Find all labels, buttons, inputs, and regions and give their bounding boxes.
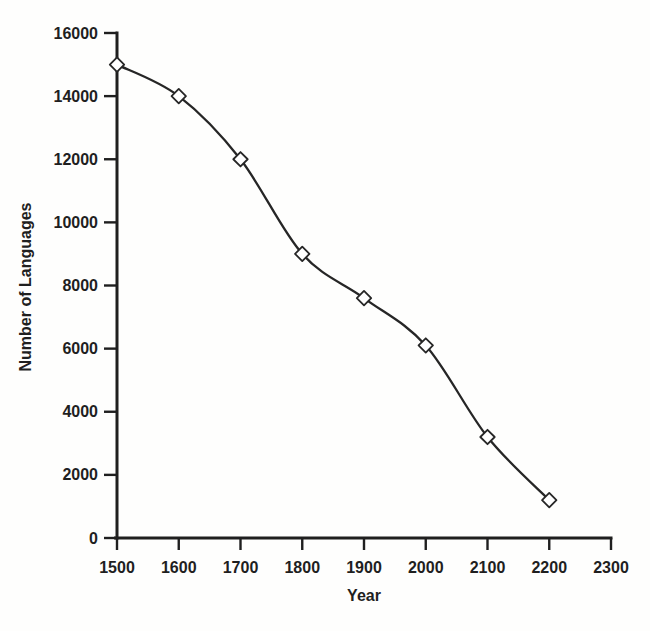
y-tick-label: 6000 <box>62 340 98 357</box>
y-tick-label: 2000 <box>62 466 98 483</box>
x-tick-label: 1900 <box>346 559 382 576</box>
chart-svg: 0200040006000800010000120001400016000150… <box>0 0 650 631</box>
y-tick-label: 10000 <box>54 214 99 231</box>
y-tick-label: 16000 <box>54 25 99 42</box>
language-decline-figure: 0200040006000800010000120001400016000150… <box>0 0 650 631</box>
series-group <box>110 57 557 507</box>
x-tick-label: 1500 <box>99 559 135 576</box>
x-tick-label: 1800 <box>284 559 320 576</box>
y-tick-label: 12000 <box>54 151 99 168</box>
x-tick-label: 2100 <box>470 559 506 576</box>
y-tick-label: 4000 <box>62 403 98 420</box>
data-point <box>357 291 371 305</box>
data-point <box>110 57 124 71</box>
x-tick-label: 2300 <box>593 559 629 576</box>
x-tick-label: 1600 <box>161 559 197 576</box>
y-tick-label: 14000 <box>54 88 99 105</box>
x-tick-label: 1700 <box>223 559 259 576</box>
y-axis-title: Number of Languages <box>17 202 34 371</box>
y-tick-label: 0 <box>89 530 98 547</box>
y-tick-label: 8000 <box>62 277 98 294</box>
x-tick-label: 2000 <box>408 559 444 576</box>
x-axis-title: Year <box>347 587 381 604</box>
x-tick-label: 2200 <box>531 559 567 576</box>
